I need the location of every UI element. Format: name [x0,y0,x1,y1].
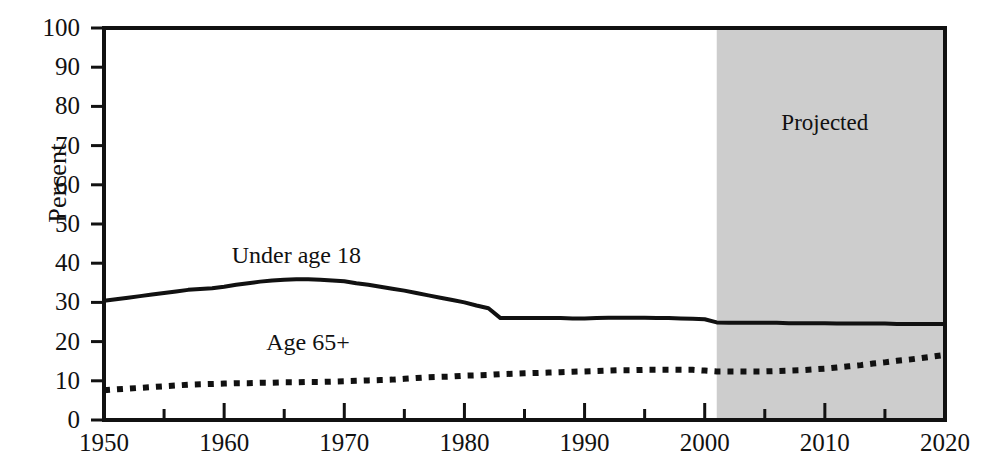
chart-plot-area [0,0,986,468]
x-axis-tick-label: 1980 [404,430,524,455]
x-axis-tick-label: 1970 [284,430,404,455]
x-axis-tick-label: 1990 [525,430,645,455]
under-18-series-label: Under age 18 [232,243,361,267]
projected-region-label: Projected [781,111,868,134]
x-axis-tick-label: 2020 [885,430,986,455]
x-axis-tick-label: 2010 [765,430,885,455]
x-axis-tick-label: 1950 [44,430,164,455]
x-axis-tick-label: 2000 [645,430,765,455]
x-axis-tick-label: 1960 [164,430,284,455]
age-65-series-label: Age 65+ [266,330,350,354]
chart-figure: Percent 0102030405060708090100 195019601… [0,0,986,468]
